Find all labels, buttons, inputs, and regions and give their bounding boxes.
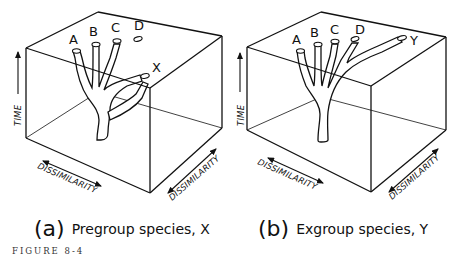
species-label-c: C bbox=[330, 22, 339, 37]
species-label-c: C bbox=[111, 20, 120, 35]
time-axis-label-a: TIME bbox=[13, 104, 23, 126]
species-label-b: B bbox=[89, 24, 98, 39]
species-label-y: Y bbox=[409, 33, 418, 48]
species-label-b: B bbox=[310, 25, 319, 40]
species-label-a: A bbox=[69, 32, 78, 47]
side-dissimilarity-label-a: DISSIMILARITY bbox=[167, 153, 222, 203]
side-dissimilarity-label-b: DISSIMILARITY bbox=[387, 152, 442, 202]
species-label-x: X bbox=[152, 60, 161, 75]
species-label-a: A bbox=[292, 32, 301, 47]
box-back-edges bbox=[26, 92, 222, 138]
panel-b-caption-text: Exgroup species, Y bbox=[296, 221, 428, 237]
panel-b-diagram: A B C D Y TIME DISSIMILARITY DISSIMILARI… bbox=[236, 12, 446, 202]
species-label-d: D bbox=[355, 22, 365, 37]
species-label-d: D bbox=[134, 18, 144, 33]
panel-a-caption: (a)Pregroup species, X bbox=[34, 216, 210, 241]
time-axis-label-b: TIME bbox=[236, 104, 246, 126]
box-back-edges bbox=[247, 97, 446, 130]
panel-a-tag: (a) bbox=[34, 216, 65, 241]
figure-label: FIGURE 8-4 bbox=[12, 246, 84, 256]
phylogeny-tree-b bbox=[297, 37, 402, 142]
panel-a-caption-text: Pregroup species, X bbox=[72, 221, 210, 237]
panel-b-tag: (b) bbox=[258, 216, 289, 241]
phylogeny-tree-a bbox=[73, 44, 148, 140]
panel-b-caption: (b)Exgroup species, Y bbox=[258, 216, 428, 241]
panel-a-diagram: A B C D X TIME DISSIMILARITY DISSIMILARI… bbox=[13, 12, 222, 203]
